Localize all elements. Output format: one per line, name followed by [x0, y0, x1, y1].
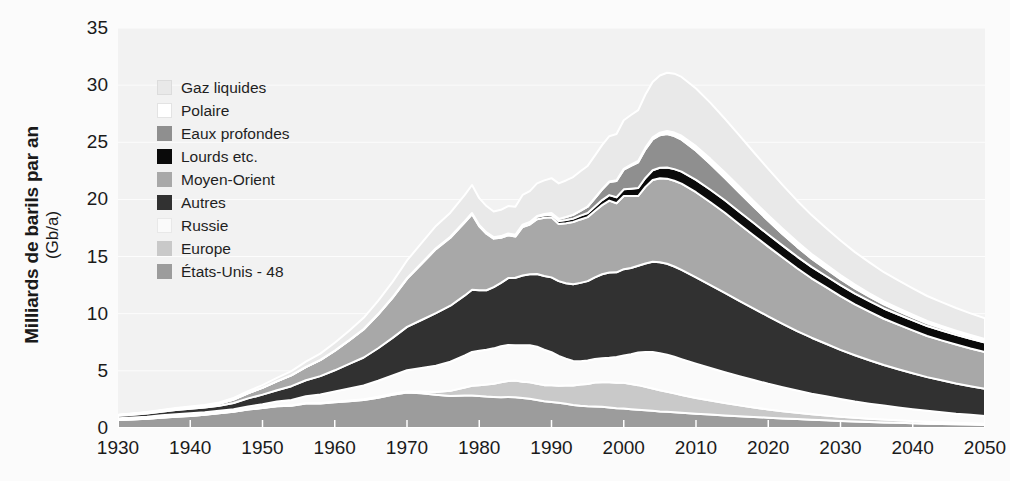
x-axis-tick-1980: 1980	[444, 437, 514, 459]
y-axis-tick-labels: 35302520151050	[56, 0, 108, 481]
chart-legend: Gaz liquidesPolaireEaux profondesLourds …	[157, 76, 357, 283]
legend-label: Eaux profondes	[181, 126, 290, 142]
x-axis-tick-1970: 1970	[372, 437, 442, 459]
legend-item-4[interactable]: Moyen-Orient	[157, 168, 357, 191]
x-axis-tick-2010: 2010	[661, 437, 731, 459]
legend-item-3[interactable]: Lourds etc.	[157, 145, 357, 168]
legend-swatch-icon	[157, 195, 172, 210]
legend-label: Autres	[181, 195, 226, 211]
legend-item-6[interactable]: Russie	[157, 214, 357, 237]
x-axis-tick-1940: 1940	[155, 437, 225, 459]
y-axis-tick-5: 5	[64, 361, 108, 380]
legend-swatch-icon	[157, 126, 172, 141]
y-axis-tick-0: 0	[64, 418, 108, 437]
x-axis-tick-1950: 1950	[228, 437, 298, 459]
x-axis-tick-2020: 2020	[733, 437, 803, 459]
y-axis-tick-10: 10	[64, 304, 108, 323]
x-axis-tick-2040: 2040	[878, 437, 948, 459]
legend-label: Russie	[181, 218, 228, 234]
y-axis-tick-20: 20	[64, 189, 108, 208]
legend-label: Polaire	[181, 103, 229, 119]
y-axis-title-line1: Milliards de barils par an	[21, 45, 42, 425]
legend-item-1[interactable]: Polaire	[157, 99, 357, 122]
legend-swatch-icon	[157, 80, 172, 95]
x-axis-tick-labels: 1930194019501960197019801990200020102020…	[0, 437, 1005, 467]
legend-swatch-icon	[157, 241, 172, 256]
y-axis-tick-35: 35	[64, 18, 108, 37]
legend-item-0[interactable]: Gaz liquides	[157, 76, 357, 99]
y-axis-tick-15: 15	[64, 247, 108, 266]
legend-label: États-Unis - 48	[181, 264, 284, 280]
legend-item-7[interactable]: Europe	[157, 237, 357, 260]
legend-item-8[interactable]: États-Unis - 48	[157, 260, 357, 283]
y-axis-tick-30: 30	[64, 75, 108, 94]
x-axis-tick-1960: 1960	[300, 437, 370, 459]
legend-label: Lourds etc.	[181, 149, 258, 165]
legend-swatch-icon	[157, 149, 172, 164]
x-axis-tick-2000: 2000	[589, 437, 659, 459]
legend-label: Moyen-Orient	[181, 172, 275, 188]
x-axis-tick-1930: 1930	[83, 437, 153, 459]
x-axis-tick-2030: 2030	[806, 437, 876, 459]
legend-swatch-icon	[157, 103, 172, 118]
legend-swatch-icon	[157, 264, 172, 279]
x-axis-tick-2050: 2050	[950, 437, 1010, 459]
legend-item-2[interactable]: Eaux profondes	[157, 122, 357, 145]
y-axis-tick-25: 25	[64, 132, 108, 151]
legend-swatch-icon	[157, 218, 172, 233]
x-axis-tick-1990: 1990	[517, 437, 587, 459]
legend-label: Gaz liquides	[181, 80, 266, 96]
legend-swatch-icon	[157, 172, 172, 187]
legend-label: Europe	[181, 241, 231, 257]
legend-item-5[interactable]: Autres	[157, 191, 357, 214]
